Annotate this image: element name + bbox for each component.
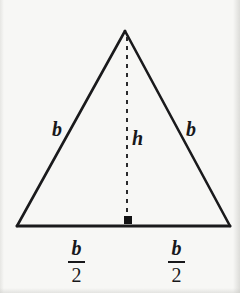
left-base-fraction-label: b 2 [68,238,85,286]
right-fraction-bar [168,261,185,263]
triangle-diagram-canvas [0,0,240,293]
right-base-fraction-label: b 2 [168,238,185,286]
geometry-figure: b b h b 2 b 2 [0,0,240,293]
left-base-numerator: b [72,238,82,259]
right-angle-marker-icon [124,216,132,224]
triangle-left-side [17,31,125,226]
left-side-label: b [52,119,62,139]
height-label: h [132,128,143,148]
right-base-denominator: 2 [172,264,182,286]
left-base-denominator: 2 [72,264,82,286]
left-fraction-bar [68,261,85,263]
right-side-label: b [186,119,196,139]
right-base-numerator: b [172,238,182,259]
